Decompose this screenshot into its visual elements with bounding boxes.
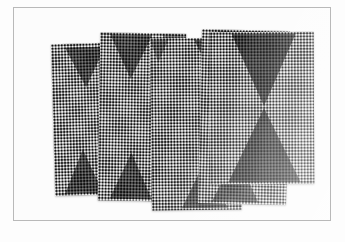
mesh-panel-5	[210, 32, 315, 185]
photograph: Five overlapping rectangular perforated …	[0, 0, 345, 242]
panel-stack	[14, 8, 330, 220]
hourglass-motif-icon	[210, 32, 315, 185]
motif-group-5	[210, 32, 315, 185]
